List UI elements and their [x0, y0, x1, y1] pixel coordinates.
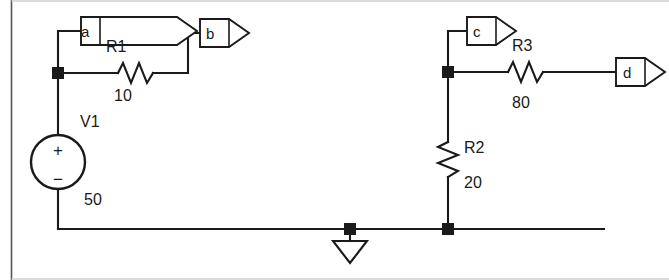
ground-symbol: [333, 241, 367, 263]
v1-ref-label: V1: [80, 114, 100, 130]
r3-ref-label: R3: [512, 38, 532, 54]
resistor-r2-body: [438, 142, 458, 177]
flag-outline-a[interactable]: [81, 17, 197, 45]
flag-label-d: d: [623, 65, 631, 80]
junction-node-a: [52, 67, 64, 79]
flag-label-b: b: [206, 26, 214, 41]
junction-node-c: [442, 66, 454, 78]
r2-value-label: 20: [464, 175, 482, 191]
r1-ref-label: R1: [106, 39, 126, 55]
flag-label-a: a: [81, 24, 89, 39]
flag-label-c: c: [473, 24, 481, 39]
resistor-r1-body: [118, 63, 153, 83]
circuit-schematic: [0, 0, 669, 280]
r1-value-label: 10: [114, 88, 132, 104]
wire-node-c-to-flag-c: [448, 31, 467, 72]
junction-ground: [344, 223, 356, 235]
wire-node-a-to-flag-a: [58, 31, 81, 73]
r2-ref-label: R2: [464, 140, 484, 156]
schematic-canvas: a b c d R1 10 V1 50 R2 20 R3 80 + −: [0, 0, 669, 280]
v1-minus-sign: −: [53, 171, 63, 188]
resistor-r3-body: [508, 62, 543, 82]
junction-bottom-right: [442, 223, 454, 235]
v1-value-label: 50: [84, 192, 102, 208]
r3-value-label: 80: [512, 95, 530, 111]
v1-plus-sign: +: [53, 142, 63, 159]
